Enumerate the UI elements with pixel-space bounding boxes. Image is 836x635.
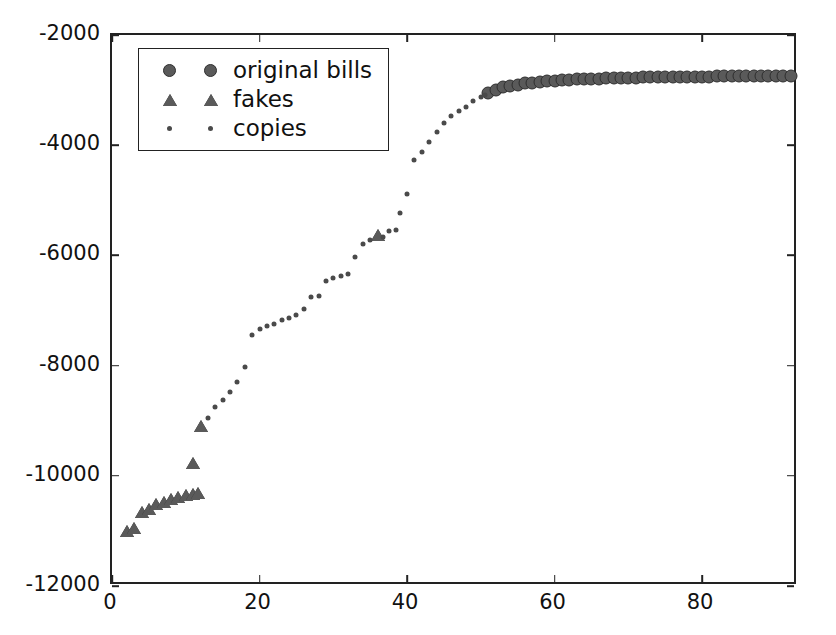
data-point-copies	[250, 333, 255, 338]
y-tick-mark	[112, 585, 119, 587]
legend-entry-copies: copies	[149, 114, 372, 143]
legend-entry-fakes: fakes	[149, 85, 372, 114]
data-point-copies	[412, 157, 417, 162]
x-tick-label: 40	[392, 590, 419, 614]
data-point-copies	[441, 121, 446, 126]
legend-label-fakes: fakes	[231, 88, 294, 111]
data-point-fakes	[194, 420, 208, 432]
y-tick-label: -4000	[0, 131, 100, 155]
data-point-copies	[331, 275, 336, 280]
y-tick-mark	[787, 144, 794, 146]
data-point-copies	[294, 313, 299, 318]
x-tick-mark	[259, 35, 261, 42]
x-tick-label: 20	[244, 590, 271, 614]
x-tick-mark	[406, 35, 408, 42]
data-point-copies	[220, 397, 225, 402]
chart-legend: original bills fakes copies	[138, 48, 389, 151]
data-point-copies	[471, 99, 476, 104]
x-tick-label: 80	[687, 590, 714, 614]
legend-label-copies: copies	[231, 117, 307, 140]
data-point-copies	[397, 210, 402, 215]
dot-icon	[159, 119, 181, 139]
data-point-fakes	[127, 522, 141, 534]
data-point-copies	[279, 318, 284, 323]
legend-label-original-bills: original bills	[231, 59, 372, 82]
x-tick-label: 0	[103, 590, 116, 614]
data-point-copies	[235, 380, 240, 385]
data-point-original-bills	[784, 70, 797, 83]
x-tick-mark	[701, 575, 703, 582]
data-point-copies	[456, 109, 461, 114]
data-point-copies	[449, 113, 454, 118]
y-tick-label: -8000	[0, 352, 100, 376]
data-point-copies	[353, 254, 358, 259]
y-tick-mark	[112, 475, 119, 477]
data-point-copies	[287, 316, 292, 321]
y-tick-mark	[112, 34, 119, 36]
data-point-copies	[434, 129, 439, 134]
y-tick-mark	[787, 365, 794, 367]
data-point-copies	[360, 241, 365, 246]
y-tick-label: -6000	[0, 241, 100, 265]
data-point-copies	[272, 322, 277, 327]
x-tick-mark	[554, 575, 556, 582]
legend-marker-group-circle	[149, 61, 231, 81]
data-point-copies	[393, 227, 398, 232]
data-point-copies	[427, 140, 432, 145]
triangle-icon	[200, 90, 222, 110]
x-tick-mark	[259, 575, 261, 582]
data-point-copies	[264, 324, 269, 329]
legend-marker-group-dot	[149, 119, 231, 139]
y-tick-label: -2000	[0, 21, 100, 45]
y-tick-label: -12000	[0, 572, 100, 596]
data-point-copies	[338, 273, 343, 278]
data-point-copies	[386, 229, 391, 234]
y-tick-mark	[787, 585, 794, 587]
data-point-copies	[323, 279, 328, 284]
data-point-copies	[419, 149, 424, 154]
data-point-copies	[483, 92, 488, 97]
plot-area: original bills fakes copies	[110, 33, 796, 584]
data-point-copies	[309, 295, 314, 300]
y-tick-mark	[112, 144, 119, 146]
x-tick-mark	[111, 35, 113, 42]
x-tick-mark	[554, 35, 556, 42]
data-point-copies	[346, 271, 351, 276]
data-point-copies	[316, 294, 321, 299]
circle-icon	[159, 61, 181, 81]
y-tick-mark	[112, 365, 119, 367]
data-point-copies	[242, 364, 247, 369]
dot-icon	[200, 119, 222, 139]
data-point-copies	[301, 307, 306, 312]
data-point-copies	[464, 104, 469, 109]
data-point-copies	[213, 405, 218, 410]
data-point-copies	[205, 416, 210, 421]
data-point-copies	[381, 234, 386, 239]
x-tick-label: 60	[539, 590, 566, 614]
triangle-icon	[159, 90, 181, 110]
data-point-copies	[368, 237, 373, 242]
legend-marker-group-triangle	[149, 90, 231, 110]
data-point-copies	[405, 192, 410, 197]
legend-entry-original-bills: original bills	[149, 56, 372, 85]
y-tick-mark	[787, 255, 794, 257]
y-tick-label: -10000	[0, 462, 100, 486]
y-tick-mark	[787, 475, 794, 477]
y-tick-mark	[112, 255, 119, 257]
x-tick-mark	[701, 35, 703, 42]
x-tick-mark	[406, 575, 408, 582]
data-point-copies	[257, 326, 262, 331]
y-tick-mark	[787, 34, 794, 36]
data-point-copies	[228, 390, 233, 395]
data-point-fakes	[186, 457, 200, 469]
x-tick-mark	[111, 575, 113, 582]
data-point-fakes	[191, 487, 205, 499]
chart-figure: original bills fakes copies 020406080-12…	[0, 0, 836, 635]
circle-icon	[200, 61, 222, 81]
